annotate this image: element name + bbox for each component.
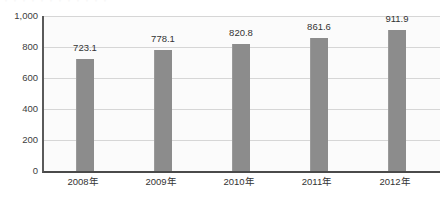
y-axis: 1,000 800 600 400 200 0 — [0, 0, 38, 199]
y-tick-label: 400 — [0, 104, 38, 114]
bar-2011[interactable] — [310, 38, 328, 172]
bar-value-label-2010: 820.8 — [211, 27, 271, 38]
x-tick-label-2009: 2009年 — [126, 176, 196, 188]
bar-2008[interactable] — [76, 59, 94, 171]
bar-value-label-2012: 911.9 — [367, 13, 427, 24]
x-tick-label-2011: 2011年 — [282, 176, 352, 188]
plot-area: 723.1 778.1 820.8 861.6 911.9 — [42, 16, 440, 173]
x-tick-label-2012: 2012年 — [360, 176, 430, 188]
bar-value-label-2008: 723.1 — [55, 42, 115, 53]
x-axis: 2008年 2009年 2010年 2011年 2012年 — [42, 176, 440, 196]
y-tick-label: 0 — [0, 166, 38, 176]
y-tick-label: 1,000 — [0, 11, 38, 21]
bar-2012[interactable] — [388, 30, 406, 171]
y-tick-label: 800 — [0, 42, 38, 52]
bar-chart: ・・・・・・・・・・・・ 1,000 800 600 400 200 0 723… — [0, 0, 447, 199]
x-tick-label-2010: 2010年 — [204, 176, 274, 188]
x-tick-label-2008: 2008年 — [48, 176, 118, 188]
plot-inner: 723.1 778.1 820.8 861.6 911.9 — [44, 16, 440, 171]
bar-value-label-2011: 861.6 — [289, 21, 349, 32]
bar-2010[interactable] — [232, 44, 250, 171]
y-tick-label: 200 — [0, 135, 38, 145]
bar-value-label-2009: 778.1 — [133, 33, 193, 44]
y-tick-label: 600 — [0, 73, 38, 83]
bar-2009[interactable] — [154, 50, 172, 171]
